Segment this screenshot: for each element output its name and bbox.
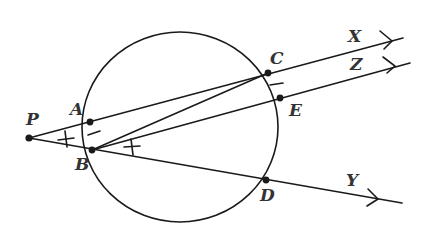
diagram-canvas (0, 0, 434, 237)
arrow-x-icon (380, 31, 392, 49)
tick-arc-ab (88, 131, 100, 135)
ray-bz (92, 63, 410, 150)
point-c (265, 70, 272, 77)
point-e (277, 95, 284, 102)
point-a (87, 119, 94, 126)
point-d (263, 177, 270, 184)
label-y: Y (346, 172, 358, 189)
tick-angle-p (58, 131, 74, 147)
label-c: C (270, 50, 284, 67)
ray-px (29, 38, 403, 138)
label-z: Z (350, 56, 362, 73)
point-b (89, 147, 96, 154)
point-p (25, 134, 32, 141)
segment-bc (92, 73, 268, 150)
circle (82, 32, 278, 222)
geometry-diagram: P A B C E D X Z Y (0, 0, 434, 237)
label-x: X (348, 28, 361, 45)
tick-arc-ce (270, 83, 283, 85)
label-a: A (70, 101, 83, 118)
label-d: D (260, 187, 275, 204)
label-e: E (289, 102, 302, 119)
label-b: B (75, 156, 89, 173)
label-p: P (26, 111, 39, 128)
